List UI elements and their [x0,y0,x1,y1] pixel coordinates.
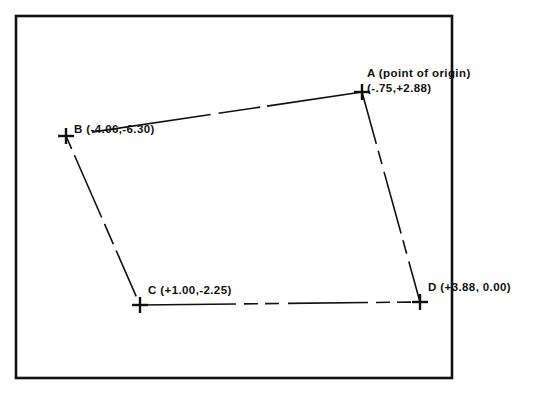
diagram-canvas: A (point of origin) (-.75,+2.88) B (-4.0… [0,0,537,395]
point-label-a: A (point of origin) (-.75,+2.88) [367,66,471,96]
point-label-a-coords: (-.75,+2.88) [367,81,471,96]
point-label-d: D (+3.88, 0.00) [428,280,511,295]
point-label-c: C (+1.00,-2.25) [148,283,232,298]
point-label-b: B (-4.06,-6.30) [74,122,155,137]
point-label-a-name: A (point of origin) [367,66,471,81]
traverse-figure [0,0,537,395]
